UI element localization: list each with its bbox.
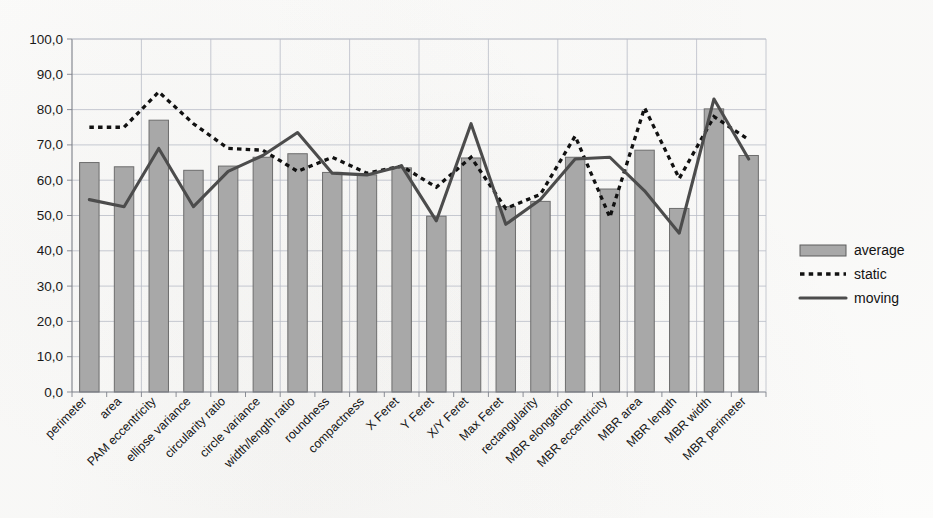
legend-item-average: average: [800, 242, 905, 258]
bar-width-length-ratio: [288, 154, 307, 392]
x-axis-category-labels: perimeterareaPAM eccentricityellipse var…: [43, 394, 749, 471]
bar-mbr-width: [704, 109, 723, 392]
bar-roundness: [323, 172, 342, 392]
bar-x-y-feret: [461, 158, 480, 392]
x-axis-label-perimeter: perimeter: [43, 394, 90, 441]
bar-mbr-elongation: [565, 157, 584, 392]
legend-item-static: static: [800, 266, 887, 282]
x-axis-label-circle-variance: circle variance: [197, 394, 263, 460]
y-axis-tick-label: 0,0: [44, 385, 63, 400]
y-axis-tick-label: 80,0: [37, 102, 63, 117]
feature-comparison-chart: 100,090,080,070,060,050,040,030,020,010,…: [0, 0, 933, 518]
bar-mbr-area: [635, 150, 654, 392]
bar-y-feret: [427, 216, 446, 392]
bar-circularity-ratio: [218, 166, 237, 392]
bar-mbr-perimeter: [739, 155, 758, 392]
legend-swatch-average: [800, 245, 846, 256]
bar-rectangularity: [531, 201, 550, 392]
y-axis-tick-labels: 100,090,080,070,060,050,040,030,020,010,…: [29, 32, 63, 400]
x-axis-label-area: area: [97, 394, 125, 422]
y-axis-tick-label: 90,0: [37, 67, 63, 82]
chart-legend: averagestaticmoving: [800, 242, 905, 306]
y-axis-tick-label: 20,0: [37, 314, 63, 329]
bar-mbr-length: [670, 208, 689, 392]
y-axis-tick-label: 60,0: [37, 173, 63, 188]
bar-mbr-eccentricity: [600, 189, 619, 392]
y-axis-tick-label: 100,0: [29, 32, 63, 47]
y-axis-tick-label: 70,0: [37, 137, 63, 152]
gridlines-group: [67, 39, 766, 392]
legend-item-moving: moving: [800, 290, 899, 306]
bar-x-feret: [392, 168, 411, 392]
vertical-gridlines-group: [72, 39, 766, 397]
bar-ellipse-variance: [184, 170, 203, 392]
bar-circle-variance: [253, 157, 272, 392]
y-axis-tick-label: 40,0: [37, 243, 63, 258]
legend-label-static: static: [854, 266, 887, 282]
bar-compactness: [357, 175, 376, 392]
y-axis-tick-label: 30,0: [37, 279, 63, 294]
y-axis-tick-label: 50,0: [37, 208, 63, 223]
bar-max-feret: [496, 207, 515, 392]
x-axis-label-mbr-perimeter: MBR perimeter: [680, 394, 749, 463]
legend-label-average: average: [854, 242, 905, 258]
legend-label-moving: moving: [854, 290, 899, 306]
x-axis-label-x-feret: X Feret: [363, 394, 402, 433]
y-axis-tick-label: 10,0: [37, 349, 63, 364]
bar-perimeter: [80, 163, 99, 392]
x-axis-label-circularity-ratio: circularity ratio: [162, 394, 228, 460]
bar-area: [114, 167, 133, 392]
